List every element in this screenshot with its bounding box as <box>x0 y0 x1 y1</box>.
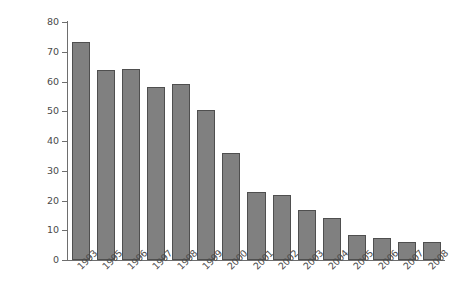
bar-group[interactable] <box>147 22 165 260</box>
bar[interactable] <box>247 192 265 260</box>
plot-area <box>68 22 445 260</box>
bar[interactable] <box>172 84 190 260</box>
bar[interactable] <box>222 153 240 260</box>
y-axis-tick-label: 40 <box>47 135 59 146</box>
bar-group[interactable] <box>122 22 140 260</box>
bar-group[interactable] <box>273 22 291 260</box>
bar-group[interactable] <box>398 22 416 260</box>
y-axis-tick-label: 20 <box>47 195 59 206</box>
y-axis-tick-label: 50 <box>47 105 59 116</box>
y-axis-tick-label: 10 <box>47 224 59 235</box>
bar-group[interactable] <box>172 22 190 260</box>
bar-group[interactable] <box>97 22 115 260</box>
bar-chart-figure: Unaccounted for water as percentage of w… <box>0 0 453 305</box>
bar[interactable] <box>72 42 90 260</box>
bar-group[interactable] <box>247 22 265 260</box>
bar[interactable] <box>122 69 140 260</box>
y-axis-tick-label: 80 <box>47 16 59 27</box>
bar[interactable] <box>147 87 165 260</box>
bar-group[interactable] <box>423 22 441 260</box>
bar-group[interactable] <box>298 22 316 260</box>
y-axis-tick-label: 70 <box>47 46 59 57</box>
bar-group[interactable] <box>348 22 366 260</box>
bar-group[interactable] <box>323 22 341 260</box>
bar-group[interactable] <box>72 22 90 260</box>
bar[interactable] <box>97 70 115 260</box>
y-axis-title: Unaccounted for water as percentage of w… <box>10 0 50 40</box>
bar-group[interactable] <box>373 22 391 260</box>
y-axis-tick-label: 0 <box>53 254 59 265</box>
y-axis-tick-label: 30 <box>47 165 59 176</box>
bar[interactable] <box>197 110 215 260</box>
bar-group[interactable] <box>222 22 240 260</box>
bar-group[interactable] <box>197 22 215 260</box>
y-axis-tick: 0 <box>62 260 68 261</box>
y-axis-tick-label: 60 <box>47 76 59 87</box>
